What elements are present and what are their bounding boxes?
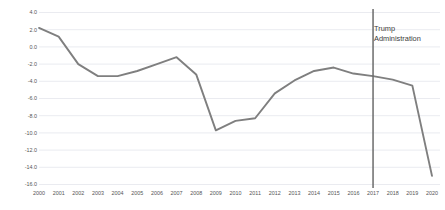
annotation-line-2: Administration [374,34,421,44]
trump-administration-annotation: Trump Administration [374,24,421,43]
annotation-line-1: Trump [374,24,421,34]
x-axis-tick-label: 2020 [420,190,444,197]
chart-container: 4.02.00.0-2.0-4.0-6.0-8.0-10.0-12.0-14.0… [0,0,445,210]
